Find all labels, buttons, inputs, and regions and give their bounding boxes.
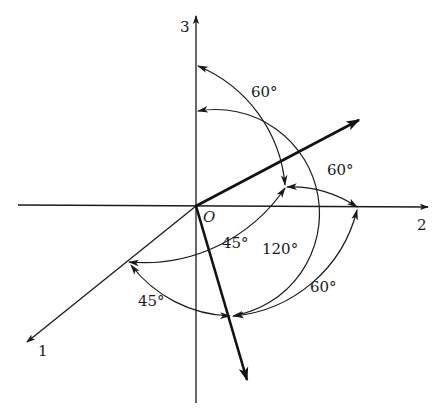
- origin-label: O: [203, 208, 215, 226]
- angle-lower-1-label: 45°: [138, 292, 165, 310]
- axes: [18, 16, 428, 403]
- axis-3-label: 3: [180, 18, 190, 36]
- axis-2-line: [18, 205, 428, 207]
- arc-upper-2: [287, 187, 357, 207]
- vector-b: [196, 206, 247, 380]
- arc-lower-3: [198, 110, 319, 316]
- angle-lower-3-label: 120°: [262, 240, 298, 258]
- angle-upper-3-label: 60°: [251, 83, 278, 101]
- labels: 3 2 1 O 60° 60° 45° 120° 60° 45°: [38, 18, 427, 360]
- angle-upper-1-label: 45°: [222, 234, 249, 252]
- angle-lower-2-label: 60°: [310, 278, 337, 296]
- axis-1-line: [27, 206, 196, 342]
- axis-2-label: 2: [417, 216, 427, 234]
- arc-lower-2: [234, 210, 357, 316]
- axis-1-label: 1: [38, 342, 48, 360]
- angle-upper-2-label: 60°: [327, 161, 354, 179]
- vector-angle-diagram: 3 2 1 O 60° 60° 45° 120° 60° 45°: [0, 0, 439, 413]
